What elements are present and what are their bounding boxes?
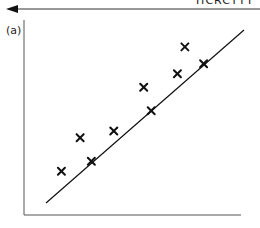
scatter-plot <box>0 0 260 228</box>
x-marker <box>140 84 147 91</box>
regression-line <box>46 30 244 203</box>
x-marker <box>58 168 65 175</box>
x-marker <box>174 70 181 77</box>
top-arrow <box>6 5 260 13</box>
data-points <box>58 43 207 174</box>
x-marker <box>110 127 117 134</box>
x-marker <box>181 43 188 50</box>
x-marker <box>77 134 84 141</box>
x-marker <box>148 107 155 114</box>
